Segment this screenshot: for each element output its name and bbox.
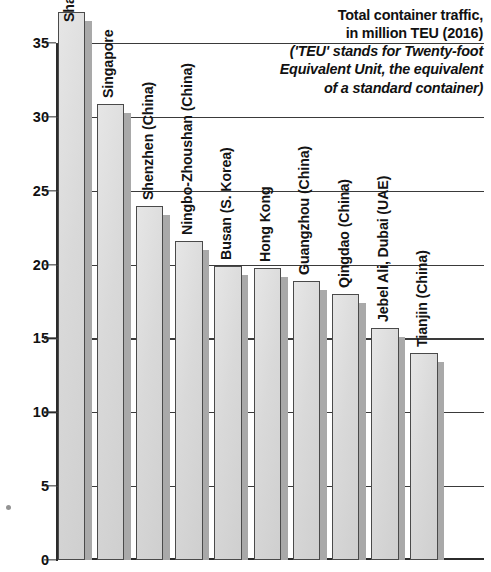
bar-body	[293, 281, 321, 560]
bar-label: Ningbo-Zhoushan (China)	[179, 63, 195, 235]
bar-body	[332, 294, 360, 560]
bar-shadow	[242, 275, 249, 560]
bar-body	[254, 268, 282, 560]
bar-body	[58, 12, 86, 560]
gridline-35	[56, 43, 484, 44]
plot-area: 05101520253035 ShanghaiSingaporeShenzhen…	[56, 6, 484, 560]
bar-shadow	[85, 21, 92, 560]
bar-body	[410, 353, 438, 560]
bar-shadow	[203, 250, 210, 560]
y-tick-mark-15	[44, 338, 56, 339]
bar-jebel-ali-dubai-uae: Jebel Ali, Dubai (UAE)	[371, 328, 405, 560]
bar-label: Shanghai	[61, 0, 77, 22]
bar-guangzhou-china: Guangzhou (China)	[293, 281, 327, 560]
bar-busan-s-korea: Busan (S. Korea)	[214, 266, 248, 560]
bar-shadow	[320, 290, 327, 560]
y-tick-mark-30	[44, 116, 56, 117]
bar-singapore: Singapore	[97, 104, 131, 560]
y-tick-mark-10	[44, 412, 56, 413]
bar-body	[175, 241, 203, 560]
bar-shanghai: Shanghai	[58, 12, 92, 560]
bar-tianjin-china: Tianjin (China)	[410, 353, 444, 560]
page-speck	[6, 505, 11, 510]
y-tick-mark-0	[44, 559, 56, 560]
y-tick-mark-20	[44, 264, 56, 265]
bar-body	[97, 104, 125, 560]
y-tick-mark-35	[44, 42, 56, 43]
bar-shadow	[163, 215, 170, 560]
bar-label: Singapore	[100, 29, 116, 97]
bar-label: Hong Kong	[257, 186, 273, 262]
bar-body	[136, 206, 164, 560]
bar-body	[214, 266, 242, 560]
bar-ningbo-zhoushan-china: Ningbo-Zhoushan (China)	[175, 241, 209, 560]
bar-label: Guangzhou (China)	[296, 146, 312, 275]
bar-label: Jebel Ali, Dubai (UAE)	[375, 176, 391, 322]
bar-body	[371, 328, 399, 560]
bar-shadow	[281, 277, 288, 560]
bar-qingdao-china: Qingdao (China)	[332, 294, 366, 560]
bar-shadow	[399, 337, 406, 560]
bar-label: Shenzhen (China)	[140, 81, 156, 199]
y-tick-mark-25	[44, 190, 56, 191]
container-traffic-chart: Total container traffic, in million TEU …	[0, 0, 491, 572]
bar-shadow	[124, 113, 131, 560]
bar-label: Tianjin (China)	[414, 250, 430, 347]
y-tick-mark-5	[44, 485, 56, 486]
bar-label: Busan (S. Korea)	[218, 147, 234, 260]
bar-hong-kong: Hong Kong	[254, 268, 288, 560]
bar-shadow	[438, 362, 445, 560]
bar-label: Qingdao (China)	[336, 179, 352, 288]
bar-shenzhen-china: Shenzhen (China)	[136, 206, 170, 560]
bar-shadow	[359, 303, 366, 560]
